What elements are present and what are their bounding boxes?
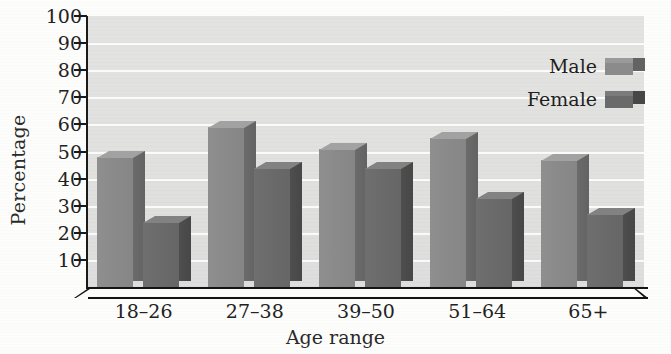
bar-female	[365, 168, 401, 287]
bar-side-face	[290, 162, 302, 281]
x-axis-title-text: Age range	[286, 326, 385, 348]
y-tick-mark	[74, 15, 87, 17]
male-swatch-icon	[605, 58, 645, 75]
legend-swatch-side	[632, 58, 645, 71]
x-tick-label: 27–38	[226, 300, 284, 322]
y-tick-mark	[74, 178, 87, 180]
bar-front-face	[319, 149, 355, 287]
bar-front-face	[541, 160, 577, 287]
bar-front-face	[587, 214, 623, 287]
bar-top-polygon	[97, 151, 145, 158]
y-axis-title-text: Percentage	[7, 115, 29, 226]
bar-top-polygon	[208, 121, 256, 128]
y-tick-mark	[74, 151, 87, 153]
x-axis-baseline	[74, 287, 648, 301]
legend-label: Male	[549, 55, 597, 77]
bar-front-face	[208, 127, 244, 287]
bar-female	[254, 168, 290, 287]
x-axis-title: Age range	[0, 326, 671, 348]
bar-front-face	[254, 168, 290, 287]
bar-male	[430, 138, 466, 287]
bar-male	[208, 127, 244, 287]
female-swatch-icon	[605, 91, 645, 108]
legend-swatch-side	[632, 91, 645, 104]
y-tick-mark	[74, 69, 87, 71]
bar-front-face	[430, 138, 466, 287]
bar-top-polygon	[587, 208, 635, 215]
baseline-left-corner	[74, 287, 90, 299]
legend-item-female: Female	[527, 88, 645, 110]
y-tick-mark	[74, 42, 87, 44]
x-axis-tick-labels: 18–2627–3839–5051–6465+	[88, 300, 644, 326]
chart-legend: MaleFemale	[470, 55, 645, 115]
y-tick-mark	[74, 205, 87, 207]
y-axis-tick-labels: 100908070605040302010	[34, 6, 82, 301]
x-tick-label: 39–50	[337, 300, 395, 322]
gridline	[88, 43, 644, 45]
legend-swatch-top	[605, 91, 633, 96]
bar-front-face	[97, 157, 133, 287]
bar-top-polygon	[365, 162, 413, 169]
bar-side-face	[179, 216, 191, 281]
bar-top-polygon	[476, 192, 524, 199]
legend-swatch-front	[605, 95, 633, 108]
legend-swatch-top	[605, 58, 633, 63]
bar-front-face	[476, 198, 512, 287]
legend-swatch-front	[605, 62, 633, 75]
bar-front-face	[365, 168, 401, 287]
bar-female	[476, 198, 512, 287]
legend-item-male: Male	[549, 55, 645, 77]
bar-front-face	[143, 222, 179, 287]
bar-top-polygon	[143, 216, 191, 223]
y-tick-mark	[74, 96, 87, 98]
bar-top-polygon	[541, 154, 589, 161]
bar-female	[587, 214, 623, 287]
legend-label: Female	[527, 88, 597, 110]
x-tick-label: 18–26	[115, 300, 173, 322]
baseline-back-edge	[88, 287, 648, 289]
bar-top-polygon	[319, 143, 367, 150]
baseline-right-corner	[632, 287, 648, 299]
y-axis-title: Percentage	[4, 60, 32, 280]
bar-top-polygon	[430, 132, 478, 139]
x-tick-label: 51–64	[448, 300, 506, 322]
bar-male	[541, 160, 577, 287]
y-tick-mark	[74, 123, 87, 125]
bar-female	[143, 222, 179, 287]
y-tick-mark	[74, 259, 87, 261]
chart-page: Percentage 100908070605040302010 18–2627…	[0, 0, 671, 354]
bar-side-face	[401, 162, 413, 281]
bar-side-face	[623, 208, 635, 281]
bar-side-face	[512, 192, 524, 281]
y-tick-mark	[74, 232, 87, 234]
x-tick-label: 65+	[568, 300, 608, 322]
y-axis-line	[86, 16, 88, 289]
bar-top-polygon	[254, 162, 302, 169]
baseline-front-edge	[88, 297, 648, 299]
gridline	[88, 124, 644, 126]
bar-male	[97, 157, 133, 287]
bar-male	[319, 149, 355, 287]
